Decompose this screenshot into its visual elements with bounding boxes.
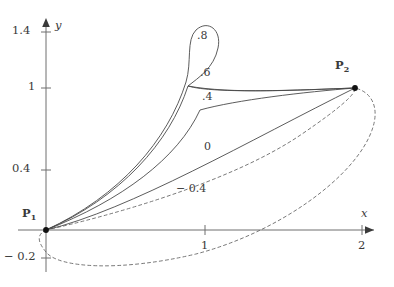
curve-lambda-0.4	[46, 88, 355, 230]
curve-family-figure: 1.4 1 0.4 − 0.2 1 2 x y P1 P2 .8 .6 .4 0…	[0, 0, 394, 287]
point-p2-dot	[352, 85, 358, 91]
curve-lambda-0.8	[46, 26, 355, 230]
y-tick-label-minus-0.2: − 0.2	[4, 251, 36, 263]
plot-canvas	[0, 0, 394, 287]
y-tick-label-0.4: 0.4	[12, 163, 30, 175]
point-p1-label: P1	[22, 208, 36, 221]
curve-label-0.6: .6	[200, 67, 211, 78]
curve-label-0: 0	[204, 141, 211, 152]
y-tick-label-1: 1	[28, 81, 35, 93]
point-p2-letter: P	[335, 58, 344, 72]
y-axis-arrow	[42, 18, 50, 27]
curve-lambda-0.6	[46, 86, 355, 230]
x-tick-label-2: 2	[358, 240, 365, 252]
point-p2-label: P2	[335, 60, 349, 73]
point-p2-subscript: 2	[344, 64, 350, 74]
x-tick-label-1: 1	[201, 240, 208, 252]
curve-label-0.8: .8	[197, 30, 208, 41]
point-p1-dot	[43, 227, 49, 233]
x-axis-label: x	[361, 208, 368, 220]
y-tick-label-1.4: 1.4	[12, 25, 30, 37]
point-p1-subscript: 1	[31, 212, 37, 222]
curve-label-0.4: .4	[202, 91, 213, 102]
point-p1-letter: P	[22, 206, 31, 220]
y-axis-label: y	[55, 20, 62, 32]
x-axis-arrow	[365, 226, 374, 234]
curve-label-minus-0.4: − 0.4	[176, 183, 206, 194]
axes-group	[18, 18, 374, 272]
